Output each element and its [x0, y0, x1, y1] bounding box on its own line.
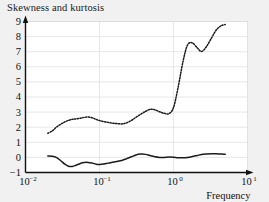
svg-text:10: 10: [167, 176, 178, 187]
chart-figure: −10123456789 10−210−1100101 Frequency: [0, 0, 269, 202]
y-tick-label: 4: [16, 91, 22, 102]
x-axis-title: Frequency: [206, 190, 251, 201]
x-axis-name: Frequency: [206, 190, 251, 201]
x-tick-label: 10−2: [19, 175, 37, 187]
svg-text:−2: −2: [29, 175, 37, 183]
y-tick-label: 3: [16, 107, 21, 118]
chart-canvas: −10123456789 10−210−1100101 Frequency: [0, 0, 269, 202]
y-tick-label: 8: [16, 31, 21, 42]
svg-text:0: 0: [179, 175, 183, 183]
y-tick-label: 7: [16, 46, 21, 57]
x-tick-label: 101: [241, 175, 257, 187]
chart-root: Skewness and kurtosis −10123456789 10−21…: [0, 0, 269, 202]
y-tick-label: 1: [16, 137, 21, 148]
x-tick-label: 100: [167, 175, 183, 187]
svg-text:−1: −1: [103, 175, 111, 183]
y-tick-label: 0: [16, 152, 21, 163]
y-tick-label: 9: [16, 16, 21, 27]
svg-text:1: 1: [253, 175, 257, 183]
x-axis-tick-labels: 10−210−1100101: [19, 175, 257, 187]
x-tick-label: 10−1: [93, 175, 111, 187]
y-tick-label: 2: [16, 122, 21, 133]
svg-text:10: 10: [241, 176, 252, 187]
y-tick-label: 5: [16, 76, 21, 87]
y-axis-tick-labels: −10123456789: [10, 16, 22, 178]
svg-text:10: 10: [93, 176, 104, 187]
y-tick-label: 6: [16, 61, 21, 72]
svg-text:10: 10: [19, 176, 30, 187]
